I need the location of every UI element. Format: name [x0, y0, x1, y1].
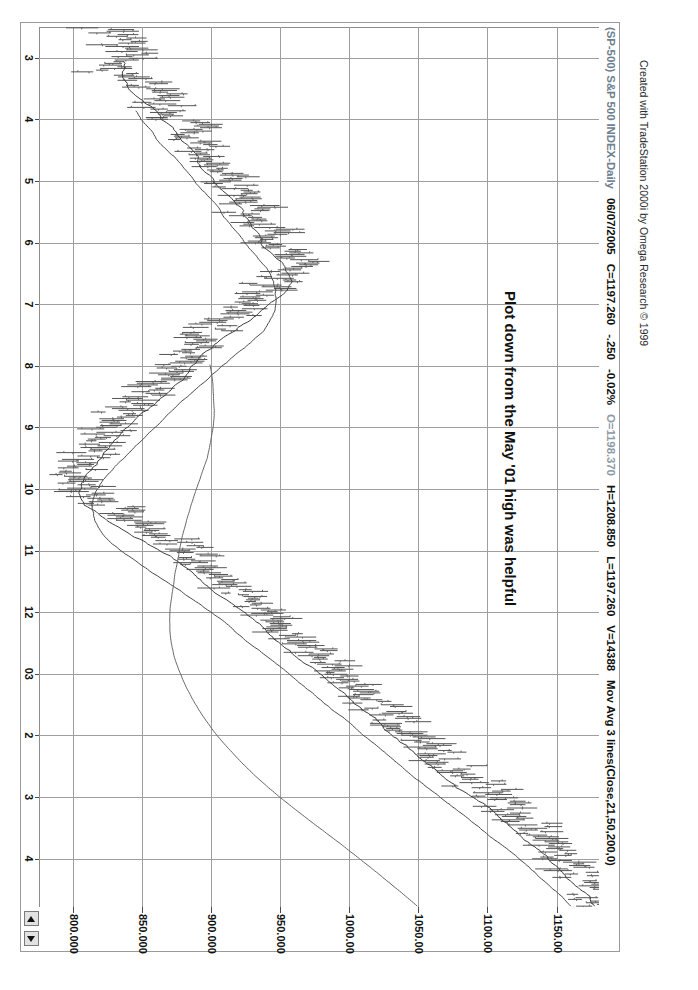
- date-tick-label: 7: [23, 301, 35, 307]
- date-tick: [35, 304, 39, 305]
- date-tick: [35, 735, 39, 736]
- quote-change-percent: -0.02%: [605, 369, 617, 405]
- triangle-left-icon: [28, 916, 36, 922]
- chart-status-line: (SP-500) S&P 500 INDEX-Daily 06/07/2005 …: [602, 27, 617, 947]
- price-tick: [280, 907, 281, 913]
- date-tick: [35, 427, 39, 428]
- date-tick: [35, 859, 39, 860]
- price-tick-label: 1150.00: [552, 914, 564, 953]
- chart-annotation: Plot down from the May '01 high was help…: [502, 291, 519, 606]
- date-tick: [35, 551, 39, 552]
- credit-line: Created with TradeStation 2000i by Omega…: [638, 60, 650, 346]
- scroll-left-button[interactable]: [24, 911, 39, 926]
- date-tick-label: 12: [23, 606, 35, 618]
- price-tick: [487, 907, 488, 913]
- price-tick: [142, 907, 143, 913]
- chart-window: (SP-500) S&P 500 INDEX-Daily 06/07/2005 …: [20, 22, 620, 952]
- triangle-right-icon: [28, 936, 36, 942]
- quote-volume: V=14388: [605, 625, 617, 671]
- quote-close: C=1197.260: [605, 264, 617, 325]
- price-tick-label: 950.000: [275, 914, 287, 954]
- price-plot-area[interactable]: Plot down from the May '01 high was help…: [39, 27, 599, 907]
- date-tick: [35, 119, 39, 120]
- symbol-label: (SP-500) S&P 500 INDEX-Daily: [605, 27, 617, 189]
- date-scale[interactable]: 345678910111203234: [21, 27, 39, 907]
- date-tick: [35, 181, 39, 182]
- price-tick-label: 1050.00: [413, 914, 425, 954]
- date-tick: [35, 489, 39, 490]
- date-tick-label: 4: [23, 856, 35, 862]
- price-tick-label: 900.000: [206, 914, 218, 954]
- date-tick-label: 3: [23, 794, 35, 800]
- date-tick-label: 4: [23, 116, 35, 122]
- quote-date: 06/07/2005: [605, 198, 617, 255]
- date-tick-label: 2: [23, 732, 35, 738]
- price-tick-label: 1100.00: [482, 914, 494, 953]
- date-tick-label: 11: [23, 545, 35, 557]
- date-tick: [35, 674, 39, 675]
- price-tick: [557, 907, 558, 913]
- date-tick-label: 10: [23, 483, 35, 495]
- date-tick-label: 8: [23, 363, 35, 369]
- date-tick: [35, 797, 39, 798]
- price-tick: [418, 907, 419, 913]
- price-scale[interactable]: 1150.001100.001050.001000.00950.000900.0…: [39, 907, 599, 947]
- date-tick-label: 3: [23, 55, 35, 61]
- date-tick-label: 03: [23, 668, 35, 680]
- screenshot-root: (SP-500) S&P 500 INDEX-Daily 06/07/2005 …: [0, 0, 698, 990]
- price-tick-label: 850.000: [137, 914, 149, 954]
- indicator-label: Mov Avg 3 lines(Close,21,50,200,0): [605, 680, 617, 866]
- date-tick: [35, 612, 39, 613]
- quote-high: H=1208.850: [605, 485, 617, 547]
- quote-change: -.250: [605, 334, 617, 360]
- date-tick: [35, 366, 39, 367]
- price-tick-label: 800.000: [68, 914, 80, 954]
- price-tick: [211, 907, 212, 913]
- price-tick: [73, 907, 74, 913]
- moving-average-line: [92, 111, 571, 906]
- scroll-right-button[interactable]: [24, 931, 39, 946]
- date-tick-label: 6: [23, 240, 35, 246]
- price-tick: [349, 907, 350, 913]
- date-tick: [35, 58, 39, 59]
- date-tick-label: 5: [23, 178, 35, 184]
- price-tick-label: 1000.00: [344, 914, 356, 954]
- quote-low: L=1197.260: [605, 556, 617, 616]
- date-tick: [35, 243, 39, 244]
- date-tick-label: 9: [23, 424, 35, 430]
- quote-open: O=1198.370: [605, 414, 617, 476]
- rotated-chart-container: (SP-500) S&P 500 INDEX-Daily 06/07/2005 …: [20, 22, 620, 952]
